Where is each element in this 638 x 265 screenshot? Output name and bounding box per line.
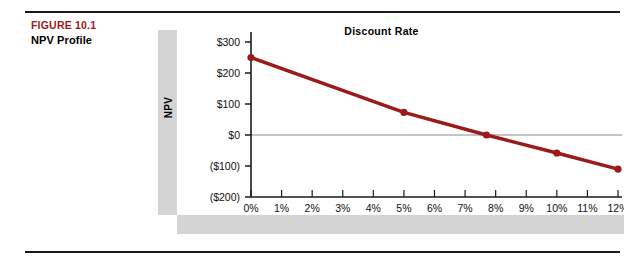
svg-text:$200: $200 xyxy=(217,67,241,79)
plot-svg: $300$200$100$0($100)($200) 0%1%2%3%4%5%6… xyxy=(177,22,624,215)
svg-text:2%: 2% xyxy=(305,202,320,214)
y-axis-label: NPV xyxy=(163,81,174,135)
svg-text:$100: $100 xyxy=(217,98,241,110)
svg-text:($200): ($200) xyxy=(210,191,240,203)
svg-text:4%: 4% xyxy=(366,202,381,214)
svg-text:6%: 6% xyxy=(427,202,442,214)
top-divider-rule xyxy=(25,11,620,13)
x-axis-tick-labels: 0%1%2%3%4%5%6%7%8%9%10%11%12% xyxy=(243,202,624,214)
figure-container: FIGURE 10.1 NPV Profile NPV Discount Rat… xyxy=(0,0,638,265)
svg-text:3%: 3% xyxy=(335,202,350,214)
svg-text:$300: $300 xyxy=(217,36,241,48)
npv-series-line xyxy=(251,58,618,170)
svg-text:9%: 9% xyxy=(519,202,534,214)
svg-text:11%: 11% xyxy=(577,202,597,214)
y-axis-tick-labels: $300$200$100$0($100)($200) xyxy=(210,36,241,203)
svg-text:7%: 7% xyxy=(457,202,472,214)
svg-text:0%: 0% xyxy=(243,202,258,214)
svg-text:$0: $0 xyxy=(228,129,240,141)
figure-title: NPV Profile xyxy=(31,33,151,47)
svg-text:1%: 1% xyxy=(274,202,289,214)
y-axis-tick-marks xyxy=(245,42,251,197)
x-axis-label-panel xyxy=(177,215,624,234)
npv-profile-chart: NPV Discount Rate $300$200$100$0($100)($… xyxy=(158,22,624,234)
svg-text:10%: 10% xyxy=(546,202,567,214)
bottom-divider-rule xyxy=(25,251,620,253)
figure-number: FIGURE 10.1 xyxy=(31,19,151,32)
svg-text:5%: 5% xyxy=(396,202,411,214)
plot-area: $300$200$100$0($100)($200) 0%1%2%3%4%5%6… xyxy=(177,22,624,215)
figure-caption: FIGURE 10.1 NPV Profile xyxy=(31,19,151,47)
svg-text:($100): ($100) xyxy=(210,160,240,172)
svg-text:8%: 8% xyxy=(488,202,503,214)
svg-text:12%: 12% xyxy=(607,202,624,214)
x-axis-tick-marks xyxy=(251,190,618,197)
